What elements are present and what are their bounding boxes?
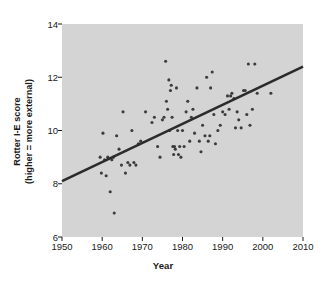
x-axis-tick-labels: 1950196019701980199020002010 [0,241,326,257]
data-point [99,156,102,159]
data-point [269,92,272,95]
data-point [173,145,176,148]
data-point [120,164,123,167]
data-point [178,145,181,148]
data-point [216,129,219,132]
data-point [164,60,167,63]
data-point [134,164,137,167]
data-point [126,161,129,164]
data-point [175,86,178,89]
data-point [251,108,254,111]
data-point [177,153,180,156]
data-point [228,108,231,111]
data-point [183,145,186,148]
data-point [221,110,224,113]
data-point [153,116,156,119]
data-point [113,211,116,214]
data-point [195,86,198,89]
data-point [105,174,108,177]
data-point [117,148,120,151]
x-tick-label: 1950 [51,241,72,253]
data-point [144,110,147,113]
data-point [162,116,165,119]
x-tick-label: 1990 [212,241,233,253]
data-point [185,110,188,113]
data-point [171,116,174,119]
data-point [172,153,175,156]
x-tick-label: 1970 [132,241,153,253]
data-point [198,140,201,143]
data-point [247,62,250,65]
data-point [122,110,125,113]
data-point [230,92,233,95]
data-point [207,140,210,143]
data-point [205,76,208,79]
data-point [256,92,259,95]
data-point [188,140,191,143]
data-point [234,126,237,129]
data-point [236,110,239,113]
data-point [101,132,104,135]
data-point [199,150,202,153]
data-point [186,100,189,103]
data-point [130,129,133,132]
data-point [132,161,135,164]
data-point [203,134,206,137]
data-point [245,113,248,116]
data-point [156,145,159,148]
data-point [109,190,112,193]
data-point [201,124,204,127]
data-point [128,164,131,167]
data-point [191,108,194,111]
data-point [212,113,215,116]
x-tick-label: 1960 [92,241,113,253]
data-point [208,134,211,137]
data-point [165,100,168,103]
data-point [229,94,232,97]
data-point [224,113,227,116]
data-point [179,156,182,159]
x-tick-label: 2000 [252,241,273,253]
data-point [209,86,212,89]
x-axis-title: Year [0,260,326,271]
data-point [169,89,172,92]
chart-figure: Rotter I-E score (higher = more external… [0,0,326,289]
data-point [237,118,240,121]
data-point [115,134,118,137]
data-point [193,132,196,135]
x-tick-label: 1980 [172,241,193,253]
data-point [244,89,247,92]
data-point [176,129,179,132]
data-point [240,126,243,129]
data-point [158,156,161,159]
data-point [150,121,153,124]
data-point [166,108,169,111]
data-point [226,94,229,97]
data-point [214,142,217,145]
data-point [124,172,127,175]
data-point [161,118,164,121]
data-point [174,148,177,151]
data-point [170,84,173,87]
data-point [248,124,251,127]
data-point [211,70,214,73]
data-point [167,78,170,81]
data-point [100,172,103,175]
data-point [219,124,222,127]
data-point [253,62,256,65]
x-tick-label: 2010 [292,241,313,253]
data-point [181,129,184,132]
